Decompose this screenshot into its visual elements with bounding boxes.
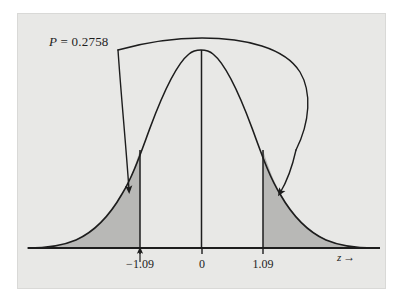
left-tail-shaded-area	[28, 150, 140, 248]
right-arrow-icon: →	[341, 250, 355, 264]
p-value-annotation: P = 0.2758	[49, 35, 109, 48]
tick-label-zero: 0	[172, 258, 232, 270]
z-axis-label: z→	[337, 251, 355, 263]
tick-label-neg-1-09: −1.09	[110, 258, 170, 270]
p-symbol: P	[49, 34, 57, 49]
right-tail-shaded-area	[263, 150, 375, 248]
normal-distribution-figure: P = 0.2758 −1.09 0 1.09 z→	[0, 0, 403, 300]
tick-label-1-09: 1.09	[233, 258, 293, 270]
left-tail-pointer-arrow	[118, 50, 129, 190]
right-tail-pointer-arrow	[280, 150, 296, 193]
p-equation: = 0.2758	[57, 34, 108, 49]
